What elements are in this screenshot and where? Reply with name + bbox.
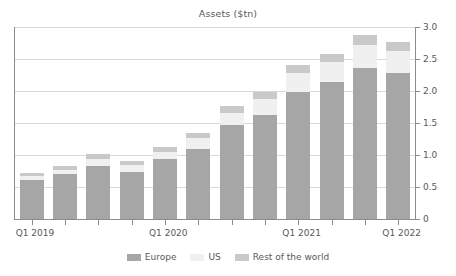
bar-segment-europe[interactable] [286, 92, 310, 219]
bar-stack[interactable] [353, 27, 377, 219]
x-axis-tick [365, 220, 366, 225]
bar-segment-rest-of-the-world[interactable] [386, 42, 410, 51]
legend-item-label: US [208, 252, 220, 262]
bar-segment-us[interactable] [320, 62, 344, 82]
bar-segment-rest-of-the-world[interactable] [20, 173, 44, 176]
bar-segment-rest-of-the-world[interactable] [53, 166, 77, 170]
bar-stack[interactable] [220, 27, 244, 219]
y-axis-tick [415, 123, 420, 124]
y-axis-tick-label: 3.0 [423, 23, 437, 32]
x-axis-tick [265, 220, 266, 225]
y-axis-tick [415, 91, 420, 92]
bar-segment-us[interactable] [53, 170, 77, 174]
x-axis-tick [332, 220, 333, 225]
x-axis-tick [65, 220, 66, 225]
assets-stacked-bar-chart: Assets ($tn) 00.51.01.52.02.53.0 Q1 2019… [0, 0, 456, 276]
y-axis-tick [415, 155, 420, 156]
y-axis-tick-label: 0 [423, 215, 429, 224]
bar-segment-europe[interactable] [120, 172, 144, 219]
x-axis-tick-label: Q1 2020 [149, 228, 188, 238]
legend-swatch-icon [127, 254, 141, 261]
bar-segment-rest-of-the-world[interactable] [286, 65, 310, 73]
bar-stack[interactable] [53, 27, 77, 219]
plot-area [15, 27, 415, 219]
bar-segment-us[interactable] [353, 45, 377, 68]
bar-segment-us[interactable] [220, 113, 244, 125]
bar-segment-rest-of-the-world[interactable] [220, 106, 244, 113]
y-axis-tick-label: 1.0 [423, 151, 437, 160]
bar-segment-rest-of-the-world[interactable] [153, 147, 177, 152]
bar-segment-europe[interactable] [353, 68, 377, 219]
y-axis-tick-label: 0.5 [423, 183, 437, 192]
bar-segment-us[interactable] [286, 73, 310, 92]
bar-segment-us[interactable] [253, 99, 277, 114]
bar-segment-europe[interactable] [153, 159, 177, 219]
bar-segment-europe[interactable] [86, 166, 110, 219]
y-axis-tick-label: 2.5 [423, 55, 437, 64]
bar-segment-us[interactable] [153, 152, 177, 159]
bar-stack[interactable] [186, 27, 210, 219]
bar-segment-rest-of-the-world[interactable] [320, 54, 344, 62]
bar-segment-europe[interactable] [20, 180, 44, 219]
y-axis-tick [415, 219, 420, 220]
legend-item-label: Rest of the world [253, 252, 329, 262]
y-axis-tick-label: 2.0 [423, 87, 437, 96]
y-axis-tick-label: 1.5 [423, 119, 437, 128]
bar-segment-europe[interactable] [386, 73, 410, 219]
chart-legend: EuropeUSRest of the world [0, 252, 456, 262]
bar-segment-europe[interactable] [320, 82, 344, 219]
x-axis-tick [98, 220, 99, 225]
x-axis-tick-label: Q1 2019 [16, 228, 55, 238]
bar-stack[interactable] [120, 27, 144, 219]
x-axis-tick [232, 220, 233, 225]
legend-item[interactable]: US [190, 252, 220, 262]
y-axis-tick [415, 27, 420, 28]
x-axis-line [14, 219, 416, 220]
bar-stack[interactable] [253, 27, 277, 219]
bar-segment-us[interactable] [186, 138, 210, 148]
x-axis-tick [165, 220, 166, 225]
bar-segment-rest-of-the-world[interactable] [186, 133, 210, 139]
bar-segment-europe[interactable] [220, 125, 244, 219]
bar-segment-rest-of-the-world[interactable] [353, 35, 377, 45]
bar-segment-us[interactable] [20, 176, 44, 180]
bar-stack[interactable] [20, 27, 44, 219]
bar-stack[interactable] [153, 27, 177, 219]
legend-item[interactable]: Rest of the world [235, 252, 329, 262]
bar-segment-rest-of-the-world[interactable] [86, 154, 110, 158]
bar-segment-rest-of-the-world[interactable] [120, 161, 144, 165]
bar-segment-us[interactable] [386, 51, 410, 73]
bar-stack[interactable] [386, 27, 410, 219]
x-axis-tick-label: Q1 2022 [382, 228, 421, 238]
bar-stack[interactable] [286, 27, 310, 219]
legend-item[interactable]: Europe [127, 252, 177, 262]
y-axis-tick [415, 187, 420, 188]
y-axis-tick [415, 59, 420, 60]
x-axis-tick [198, 220, 199, 225]
x-axis-tick [132, 220, 133, 225]
x-axis-tick-label: Q1 2021 [282, 228, 321, 238]
bar-segment-europe[interactable] [253, 115, 277, 219]
x-axis-tick [398, 220, 399, 225]
bar-stack[interactable] [320, 27, 344, 219]
x-axis-tick [298, 220, 299, 225]
legend-swatch-icon [235, 254, 249, 261]
bar-stack[interactable] [86, 27, 110, 219]
bar-segment-rest-of-the-world[interactable] [253, 92, 277, 100]
bar-segment-us[interactable] [120, 165, 144, 171]
x-axis-tick [32, 220, 33, 225]
bar-segment-europe[interactable] [53, 174, 77, 219]
legend-item-label: Europe [145, 252, 177, 262]
chart-title: Assets ($tn) [0, 8, 456, 19]
bar-segment-europe[interactable] [186, 149, 210, 219]
legend-swatch-icon [190, 254, 204, 261]
bar-segment-us[interactable] [86, 159, 110, 166]
